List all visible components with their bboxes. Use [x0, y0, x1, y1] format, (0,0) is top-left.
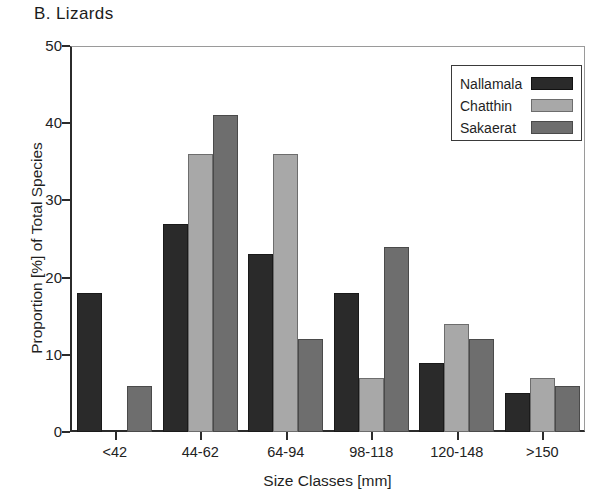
y-axis-tick-label: 30 — [22, 192, 62, 209]
panel-title: B. Lizards — [34, 4, 114, 24]
x-axis-tick-label: <42 — [102, 444, 127, 460]
y-axis-tick-mark — [62, 431, 70, 433]
figure-lizards-size-class-chart: B. Lizards Proportion [%] of Total Speci… — [0, 0, 602, 497]
x-axis-tick-mark — [542, 432, 544, 440]
legend: NallamalaChatthinSakaerat — [451, 65, 582, 141]
x-axis-tick-label: 120-148 — [430, 444, 483, 460]
legend-color-swatch — [531, 99, 573, 112]
bar-nallamala->150 — [505, 393, 530, 432]
y-axis-tick-mark — [62, 199, 70, 201]
bar-nallamala-<42 — [77, 293, 102, 432]
bar-chatthin-120-148 — [444, 324, 469, 432]
y-axis-tick-label: 10 — [22, 346, 62, 363]
bar-chatthin-44-62 — [188, 154, 213, 432]
bar-chatthin-98-118 — [359, 378, 384, 432]
x-axis-tick-mark — [200, 432, 202, 440]
y-axis-tick-label: 0 — [22, 423, 62, 440]
bar-sakaerat-44-62 — [213, 115, 238, 432]
bar-sakaerat-98-118 — [384, 247, 409, 432]
legend-item-chatthin: Chatthin — [460, 95, 573, 116]
x-axis-tick-mark — [457, 432, 459, 440]
x-axis-tick-mark — [115, 432, 117, 440]
x-axis-title: Size Classes [mm] — [70, 472, 585, 490]
y-axis-tick-mark — [62, 354, 70, 356]
x-axis-tick-label: >150 — [526, 444, 559, 460]
x-axis-tick-label: 44-62 — [182, 444, 219, 460]
bar-chatthin->150 — [530, 378, 555, 432]
x-axis-tick-mark — [371, 432, 373, 440]
legend-item-sakaerat: Sakaerat — [460, 117, 573, 138]
bar-sakaerat-<42 — [127, 386, 152, 432]
bar-nallamala-44-62 — [163, 224, 188, 432]
bar-sakaerat->150 — [555, 386, 580, 432]
legend-item-nallamala: Nallamala — [460, 73, 573, 94]
y-axis-tick-label: 20 — [22, 269, 62, 286]
bar-nallamala-120-148 — [419, 363, 444, 432]
y-axis-tick-mark — [62, 45, 70, 47]
x-axis-tick-label: 98-118 — [349, 444, 393, 460]
legend-color-swatch — [531, 121, 573, 134]
y-axis-tick-label: 50 — [22, 37, 62, 54]
bar-chatthin-64-94 — [273, 154, 298, 432]
x-axis-tick-label: 64-94 — [267, 444, 304, 460]
x-axis-tick-mark — [286, 432, 288, 440]
legend-color-swatch — [531, 77, 573, 90]
bar-nallamala-64-94 — [248, 254, 273, 432]
y-axis-tick-mark — [62, 122, 70, 124]
bar-sakaerat-64-94 — [298, 339, 323, 432]
legend-item-label: Sakaerat — [460, 120, 516, 136]
bar-sakaerat-120-148 — [469, 339, 494, 432]
legend-item-label: Chatthin — [460, 98, 512, 114]
y-axis-tick-mark — [62, 277, 70, 279]
y-axis-title: Proportion [%] of Total Species — [28, 83, 46, 413]
y-axis-tick-label: 40 — [22, 114, 62, 131]
bar-nallamala-98-118 — [334, 293, 359, 432]
legend-item-label: Nallamala — [460, 76, 522, 92]
